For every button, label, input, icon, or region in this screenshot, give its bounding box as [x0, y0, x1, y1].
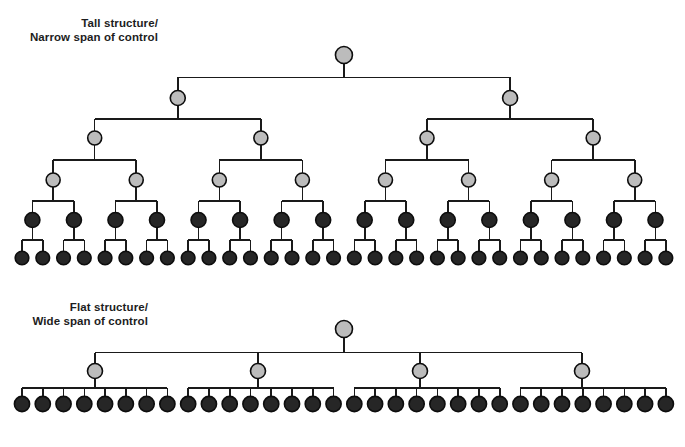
worker-node: [534, 396, 549, 411]
manager-node: [378, 173, 392, 187]
manager-node: [413, 364, 428, 379]
flat-structure-tree: [14, 321, 673, 412]
worker-node: [139, 396, 154, 411]
worker-node: [78, 251, 92, 265]
worker-node: [274, 213, 289, 228]
worker-node: [440, 213, 455, 228]
worker-node: [565, 213, 580, 228]
worker-node: [161, 251, 175, 265]
worker-node: [659, 251, 673, 265]
worker-node: [513, 396, 528, 411]
flat-structure-caption: Flat structure/ Wide span of control: [0, 300, 148, 328]
worker-node: [14, 396, 29, 411]
worker-node: [493, 251, 507, 265]
worker-node: [399, 213, 414, 228]
worker-node: [150, 213, 165, 228]
worker-node: [160, 396, 175, 411]
worker-node: [316, 213, 331, 228]
worker-node: [305, 396, 320, 411]
worker-node: [25, 213, 40, 228]
worker-node: [285, 251, 299, 265]
worker-node: [471, 396, 486, 411]
worker-node: [244, 251, 258, 265]
worker-node: [357, 213, 372, 228]
worker-node: [555, 251, 569, 265]
worker-node: [181, 251, 195, 265]
worker-node: [201, 396, 216, 411]
tall-structure-tree: [15, 47, 672, 265]
manager-node: [212, 173, 226, 187]
worker-node: [430, 396, 445, 411]
worker-node: [264, 396, 279, 411]
manager-node: [628, 173, 642, 187]
worker-node: [617, 396, 632, 411]
worker-node: [264, 251, 278, 265]
worker-node: [492, 396, 507, 411]
worker-node: [576, 251, 590, 265]
worker-node: [648, 213, 663, 228]
worker-node: [327, 251, 341, 265]
worker-node: [119, 251, 133, 265]
worker-node: [451, 396, 466, 411]
worker-node: [36, 251, 50, 265]
worker-node: [388, 396, 403, 411]
worker-node: [523, 213, 538, 228]
worker-node: [347, 396, 362, 411]
worker-node: [367, 396, 382, 411]
worker-node: [482, 213, 497, 228]
worker-node: [222, 396, 237, 411]
worker-node: [409, 396, 424, 411]
worker-node: [410, 251, 424, 265]
worker-node: [202, 251, 216, 265]
manager-node: [462, 173, 476, 187]
worker-node: [56, 396, 71, 411]
worker-node: [15, 251, 29, 265]
worker-node: [233, 213, 248, 228]
worker-node: [181, 396, 196, 411]
manager-node: [254, 131, 268, 145]
manager-node: [88, 131, 102, 145]
worker-node: [66, 213, 81, 228]
worker-node: [140, 251, 154, 265]
worker-node: [554, 396, 569, 411]
worker-node: [618, 251, 632, 265]
tall-structure-caption: Tall structure/ Narrow span of control: [0, 16, 158, 44]
worker-node: [35, 396, 50, 411]
manager-node: [129, 173, 143, 187]
worker-node: [348, 251, 362, 265]
worker-node: [596, 396, 611, 411]
worker-node: [191, 213, 206, 228]
manager-node: [88, 364, 103, 379]
manager-node: [575, 364, 590, 379]
worker-node: [97, 396, 112, 411]
worker-node: [575, 396, 590, 411]
root-node: [335, 47, 352, 64]
worker-node: [98, 251, 112, 265]
worker-node: [108, 213, 123, 228]
worker-node: [77, 396, 92, 411]
worker-node: [638, 396, 653, 411]
worker-node: [514, 251, 528, 265]
worker-node: [306, 251, 320, 265]
manager-node: [503, 91, 518, 106]
worker-node: [638, 251, 652, 265]
manager-node: [170, 91, 185, 106]
worker-node: [284, 396, 299, 411]
worker-node: [606, 213, 621, 228]
worker-node: [431, 251, 445, 265]
worker-node: [472, 251, 486, 265]
manager-node: [46, 173, 60, 187]
hierarchy-svg-canvas: [0, 0, 685, 447]
worker-node: [658, 396, 673, 411]
root-node: [336, 321, 353, 338]
worker-node: [57, 251, 71, 265]
worker-node: [368, 251, 382, 265]
worker-node: [534, 251, 548, 265]
manager-node: [420, 131, 434, 145]
worker-node: [118, 396, 133, 411]
worker-node: [223, 251, 237, 265]
worker-node: [451, 251, 465, 265]
org-structure-diagram: Tall structure/ Narrow span of control F…: [0, 0, 685, 447]
manager-node: [586, 131, 600, 145]
manager-node: [251, 364, 266, 379]
